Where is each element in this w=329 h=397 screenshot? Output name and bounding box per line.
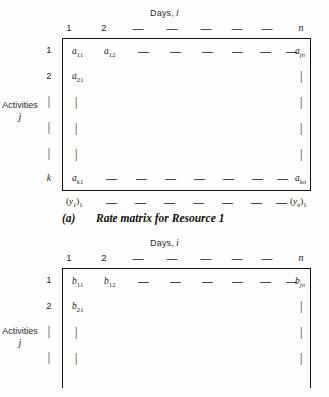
row-label-b-ellipsis-2: | xyxy=(40,350,58,365)
activities-axis-label-symbol: j xyxy=(0,111,40,122)
cell-b-1-2: b12 xyxy=(104,276,116,288)
cell-a-3-1-bar: | xyxy=(75,95,77,110)
cell-b-1-dash-4: — xyxy=(232,275,243,287)
cell-a-2-n-bar: | xyxy=(300,69,302,84)
cell-a-1-dash-4: — xyxy=(232,45,243,57)
cell-a-1-2: a12 xyxy=(104,46,116,58)
days-axis-label-b-symbol: i xyxy=(176,237,179,248)
rate-vector-dash-6: — xyxy=(251,196,262,208)
days-axis-label-symbol: i xyxy=(176,7,179,18)
row-label-ellipsis-3: | xyxy=(40,146,58,161)
row-label-ellipsis-1: | xyxy=(40,94,58,109)
cell-a-1-n: ajn xyxy=(295,46,305,58)
activities-axis-label-text: Activities xyxy=(0,100,40,111)
column-header-row: 1 2 — — — — — n xyxy=(62,22,311,36)
cell-a-2-1: a21 xyxy=(72,71,84,83)
cell-a-k-dash-4: — xyxy=(194,172,205,184)
row-label-b-1: 1 xyxy=(40,274,58,285)
activities-axis-label-b-text: Activities xyxy=(0,326,40,337)
column-header-dash-2: — xyxy=(161,22,183,34)
rate-vector-y1: (y1)1 xyxy=(66,196,83,208)
column-header-dash-4: — xyxy=(226,22,248,34)
cell-a-k-dash-3: — xyxy=(165,172,176,184)
column-header-n: n xyxy=(290,22,312,33)
cell-a-k-dash-6: — xyxy=(252,172,263,184)
cell-a-4-1-bar: | xyxy=(75,121,77,136)
matrix-cells-a: a11 a12 — — — — — — ajn a21 | | | | | | … xyxy=(62,38,311,191)
row-label-1: 1 xyxy=(40,44,58,55)
cell-a-1-dash-1: — xyxy=(138,45,149,57)
cell-a-1-1: a11 xyxy=(72,46,84,58)
cell-a-1-dash-5: — xyxy=(260,45,271,57)
column-header-b-n: n xyxy=(290,252,312,263)
cell-b-3-n-bar: | xyxy=(300,325,302,340)
figure-a-caption-tag: (a) xyxy=(62,212,96,224)
figure-a-caption-text: Rate matrix for Resource 1 xyxy=(96,212,224,224)
days-axis-label: Days,i xyxy=(150,7,179,18)
column-header-2: 2 xyxy=(93,22,115,33)
activities-axis-label: Activities j xyxy=(0,100,40,122)
column-header-dash-3: — xyxy=(195,22,217,34)
cell-b-1-dash-5: — xyxy=(260,275,271,287)
cell-b-4-1-bar: | xyxy=(75,351,77,366)
figure-a-caption: (a)Rate matrix for Resource 1 xyxy=(62,212,311,224)
rate-vector-dash-3: — xyxy=(164,196,175,208)
column-header-1: 1 xyxy=(58,22,80,33)
activities-axis-label-b: Activities j xyxy=(0,326,40,348)
rate-vector-yn: (yn)1 xyxy=(290,196,307,208)
row-label-b-ellipsis-1: | xyxy=(40,324,58,339)
cell-b-4-n-bar: | xyxy=(300,351,302,366)
cell-a-k-dash-7: — xyxy=(277,172,288,184)
cell-a-k-dash-2: — xyxy=(136,172,147,184)
cell-b-1-n: bjn xyxy=(295,276,305,288)
cell-a-k-1: ak1 xyxy=(72,173,84,185)
cell-b-1-dash-2: — xyxy=(170,275,181,287)
column-header-b-dash-1: — xyxy=(127,252,149,264)
rate-vector-dash-4: — xyxy=(193,196,204,208)
days-axis-label-b-text: Days, xyxy=(150,238,174,248)
cell-b-2-1: b21 xyxy=(72,301,84,313)
cell-a-k-dash-1: — xyxy=(106,172,117,184)
cell-b-1-dash-1: — xyxy=(138,275,149,287)
row-label-2: 2 xyxy=(40,70,58,81)
column-header-dash-5: — xyxy=(256,22,278,34)
rate-vector-dash-5: — xyxy=(222,196,233,208)
rate-vector-dash-2: — xyxy=(135,196,146,208)
column-header-b-dash-3: — xyxy=(195,252,217,264)
matrix-cells-b: b11 b12 — — — — — — bjn b21 | | | | | xyxy=(62,268,311,397)
cell-a-k-n: akn xyxy=(295,173,307,185)
column-header-dash-1: — xyxy=(127,22,149,34)
cell-b-3-1-bar: | xyxy=(75,325,77,340)
cell-b-1-1: b11 xyxy=(72,276,84,288)
column-header-row-b: 1 2 — — — — — n xyxy=(62,252,311,266)
row-label-b-2: 2 xyxy=(40,300,58,311)
column-header-b-dash-5: — xyxy=(256,252,278,264)
cell-a-k-dash-5: — xyxy=(223,172,234,184)
days-axis-label-b: Days,i xyxy=(150,237,179,248)
cell-a-3-n-bar: | xyxy=(300,95,302,110)
column-header-b-2: 2 xyxy=(93,252,115,263)
rate-vector-dash-7: — xyxy=(276,196,287,208)
cell-b-2-n-bar: | xyxy=(300,299,302,314)
column-header-b-dash-2: — xyxy=(161,252,183,264)
cell-b-1-dash-3: — xyxy=(202,275,213,287)
row-label-ellipsis-2: | xyxy=(40,120,58,135)
row-label-k: k xyxy=(40,172,58,183)
column-header-b-1: 1 xyxy=(58,252,80,263)
rate-vector-dash-1: — xyxy=(106,196,117,208)
column-header-b-dash-4: — xyxy=(226,252,248,264)
activities-axis-label-b-symbol: j xyxy=(0,337,40,348)
cell-a-5-1-bar: | xyxy=(75,147,77,162)
cell-a-1-dash-2: — xyxy=(170,45,181,57)
rate-vector-row: (y1)1 — — — — — — — (yn)1 xyxy=(62,196,311,210)
cell-a-4-n-bar: | xyxy=(300,121,302,136)
cell-a-5-n-bar: | xyxy=(300,147,302,162)
days-axis-label-text: Days, xyxy=(150,8,174,18)
cell-a-1-dash-3: — xyxy=(202,45,213,57)
